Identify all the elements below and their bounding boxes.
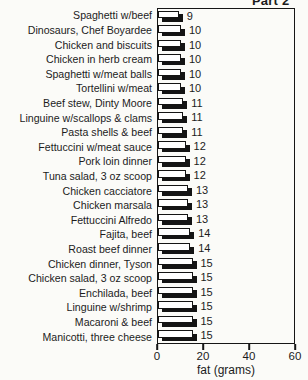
bar <box>158 11 179 22</box>
bar-face <box>158 141 186 149</box>
bar-face <box>158 40 181 48</box>
bar-face <box>158 199 188 207</box>
bar-face <box>158 214 188 222</box>
bar <box>158 98 183 109</box>
bar-value-label: 11 <box>191 127 202 138</box>
bar-row: 11 <box>158 111 294 126</box>
bar-value-label: 14 <box>198 243 210 254</box>
category-label: Roast beef dinner <box>68 243 152 255</box>
bar-value-label: 12 <box>194 170 206 181</box>
bar-row: 9 <box>158 9 294 24</box>
bar-row: 13 <box>158 183 294 198</box>
category-label-row: Fettuccini w/meat sauce <box>0 139 152 154</box>
bar-value-label: 15 <box>201 316 213 327</box>
bar-value-label: 11 <box>191 112 202 123</box>
x-tick-label: 40 <box>243 350 256 362</box>
category-label: Fettuccini Alfredo <box>71 214 152 226</box>
bar-row: 13 <box>158 212 294 227</box>
category-label-row: Chicken and biscuits <box>0 37 152 52</box>
bar-row: 15 <box>158 299 294 314</box>
bar-row: 15 <box>158 314 294 329</box>
category-label-row: Pork loin dinner <box>0 154 152 169</box>
bar-value-label: 10 <box>189 54 201 65</box>
bar <box>158 330 193 341</box>
category-label: Tuna salad, 3 oz scoop <box>43 170 152 182</box>
category-label-row: Linguine w/shrimp <box>0 300 152 315</box>
bar-face <box>158 185 188 193</box>
category-label-row: Macaroni & beef <box>0 315 152 330</box>
bar <box>158 272 193 283</box>
category-label: Spaghetti w/beef <box>73 9 152 21</box>
bar-row: 10 <box>158 53 294 68</box>
bar-face <box>158 25 181 33</box>
bar <box>158 25 181 36</box>
bar-value-label: 10 <box>189 69 201 80</box>
bar <box>158 156 186 167</box>
bar-row: 13 <box>158 198 294 213</box>
bar <box>158 127 183 138</box>
bar <box>158 185 188 196</box>
bar-value-label: 15 <box>201 330 213 341</box>
bar-face <box>158 11 179 19</box>
category-label-row: Chicken in herb cream <box>0 52 152 67</box>
bar-face <box>158 301 193 309</box>
bar <box>158 40 181 51</box>
category-label: Chicken and biscuits <box>55 39 152 51</box>
bar <box>158 228 190 239</box>
bar <box>158 287 193 298</box>
category-label-row: Linguine w/scallops & clams <box>0 110 152 125</box>
bar-face <box>158 170 186 178</box>
bar-face <box>158 243 190 251</box>
bar <box>158 243 190 254</box>
bar-face <box>158 316 193 324</box>
bar-value-label: 13 <box>196 214 208 225</box>
x-axis-tick-labels: 0204060 <box>157 350 295 363</box>
bar <box>158 214 188 225</box>
bar-row: 15 <box>158 256 294 271</box>
category-label: Pork loin dinner <box>78 155 152 167</box>
bar-value-label: 9 <box>187 11 193 22</box>
category-label: Enchilada, beef <box>79 287 152 299</box>
bar <box>158 112 183 123</box>
bar-row: 14 <box>158 227 294 242</box>
bar-value-label: 14 <box>198 228 210 239</box>
bar-face <box>158 228 190 236</box>
bar-face <box>158 330 193 338</box>
bar-face <box>158 112 183 120</box>
category-label: Pasta shells & beef <box>61 126 152 138</box>
bar <box>158 301 193 312</box>
bar-face <box>158 83 181 91</box>
category-label: Tortellini w/meat <box>76 82 152 94</box>
bar <box>158 69 181 80</box>
category-label-row: Manicotti, three cheese <box>0 329 152 344</box>
category-label: Dinosaurs, Chef Boyardee <box>28 24 152 36</box>
category-label: Chicken cacciatore <box>63 185 153 197</box>
chart-title: Part 2 <box>252 0 289 8</box>
bar <box>158 170 186 181</box>
bar-face <box>158 127 183 135</box>
category-label-row: Pasta shells & beef <box>0 125 152 140</box>
category-label-row: Chicken dinner, Tyson <box>0 256 152 271</box>
plot-area: 9 10 10 10 10 10 <box>157 8 295 344</box>
category-label-row: Enchilada, beef <box>0 286 152 301</box>
category-label: Chicken marsala <box>73 199 152 211</box>
x-tick-label: 0 <box>154 350 160 362</box>
bar <box>158 199 188 210</box>
bar-value-label: 10 <box>189 40 201 51</box>
category-label: Manicotti, three cheese <box>42 331 152 343</box>
bar-value-label: 13 <box>196 185 208 196</box>
category-label: Linguine w/shrimp <box>67 301 152 313</box>
bar-face <box>158 258 193 266</box>
category-label-row: Beef stew, Dinty Moore <box>0 96 152 111</box>
category-label: Linguine w/scallops & clams <box>20 112 152 124</box>
bar <box>158 258 193 269</box>
category-label-row: Chicken marsala <box>0 198 152 213</box>
bar-face <box>158 156 186 164</box>
bar-row: 12 <box>158 154 294 169</box>
bar-face <box>158 287 193 295</box>
bar-row: 14 <box>158 241 294 256</box>
bar-value-label: 12 <box>194 156 206 167</box>
category-label-row: Tortellini w/meat <box>0 81 152 96</box>
x-axis-label: fat (grams) <box>157 363 295 377</box>
category-label: Chicken salad, 3 oz scoop <box>28 272 152 284</box>
